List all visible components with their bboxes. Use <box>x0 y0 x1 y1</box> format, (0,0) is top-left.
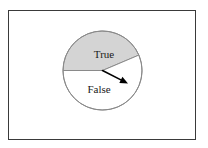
pie-label-true: True <box>94 48 114 60</box>
chart-canvas: True False <box>0 0 208 148</box>
pie-label-false: False <box>87 83 110 95</box>
pie-chart: True False <box>0 0 208 148</box>
